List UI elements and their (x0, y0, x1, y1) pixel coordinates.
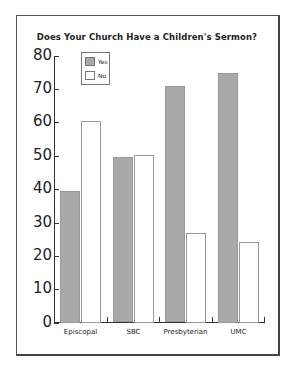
bar-umc-no (239, 242, 259, 323)
legend-label-yes: Yes (98, 58, 108, 65)
x-tick-mark (212, 317, 213, 323)
y-tick-mark (54, 189, 59, 190)
y-tick-mark (54, 223, 59, 224)
y-tick-mark (54, 256, 59, 257)
bar-presbyterian-no (186, 233, 206, 323)
bar-presbyterian-yes (165, 86, 185, 322)
legend-item-yes: Yes (85, 56, 108, 66)
x-tick-mark (107, 317, 108, 323)
x-tick-label: Episcopal (54, 328, 107, 336)
legend-swatch-yes (85, 57, 95, 66)
y-tick-label: 60 (20, 114, 52, 129)
y-tick-label: 10 (20, 281, 52, 296)
bar-episcopal-yes (60, 191, 80, 323)
y-tick-label: 80 (20, 48, 52, 63)
y-tick-mark (54, 56, 59, 57)
x-tick-label: UMC (212, 328, 265, 336)
y-tick-label: 30 (20, 215, 52, 230)
y-tick-label: 0 (20, 315, 52, 330)
x-tick-mark (264, 317, 265, 323)
y-tick-mark (54, 89, 59, 90)
y-tick-mark (54, 122, 59, 123)
x-tick-label: Presbyterian (159, 328, 212, 336)
y-tick-label: 50 (20, 148, 52, 163)
y-tick-label: 20 (20, 248, 52, 263)
bar-episcopal-no (81, 121, 101, 323)
x-tick-mark (159, 317, 160, 323)
bar-umc-yes (218, 73, 238, 323)
y-tick-label: 70 (20, 81, 52, 96)
chart-title: Does Your Church Have a Children's Sermo… (0, 32, 294, 42)
y-tick-label: 40 (20, 181, 52, 196)
legend-item-no: No (85, 70, 106, 80)
y-tick-mark (54, 156, 59, 157)
bar-sbc-yes (113, 157, 133, 322)
y-tick-mark (54, 289, 59, 290)
legend-swatch-no (85, 71, 95, 80)
y-tick-mark (54, 323, 59, 324)
legend-label-no: No (98, 72, 106, 79)
bar-sbc-no (134, 155, 154, 323)
x-tick-label: SBC (107, 328, 160, 336)
legend: Yes No (81, 52, 110, 85)
